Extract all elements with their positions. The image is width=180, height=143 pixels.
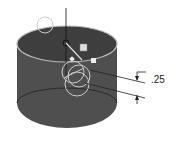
dimension-arrow-top [135,76,139,81]
handle-square[interactable] [80,44,87,51]
handle-arrow-right[interactable] [91,58,96,63]
dimension-label[interactable]: .25 [151,74,165,85]
cylinder-diagram [0,0,180,143]
